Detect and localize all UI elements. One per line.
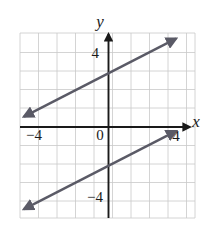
plot-background bbox=[20, 33, 195, 218]
origin-label: 0 bbox=[96, 127, 104, 143]
x-tick-label-4: 4 bbox=[172, 128, 180, 144]
y-tick-label-4: 4 bbox=[92, 45, 100, 61]
y-tick-label-neg4: −4 bbox=[87, 189, 103, 205]
x-tick-label-neg4: −4 bbox=[26, 127, 42, 143]
y-axis-label: y bbox=[94, 12, 104, 31]
coordinate-plane-svg: y x −4 4 0 4 −4 bbox=[0, 0, 211, 229]
graph-figure: y x −4 4 0 4 −4 bbox=[0, 0, 211, 229]
x-axis-label: x bbox=[191, 112, 200, 131]
